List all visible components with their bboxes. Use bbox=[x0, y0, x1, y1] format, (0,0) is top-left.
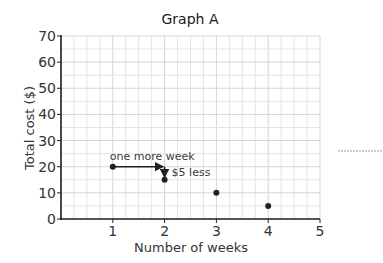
y-tick-label: 70 bbox=[38, 28, 56, 44]
five-less-label: $5 less bbox=[172, 166, 211, 179]
one-more-week-label: one more week bbox=[110, 150, 195, 163]
x-tick-label: 2 bbox=[160, 223, 169, 239]
x-axis-label: Number of weeks bbox=[134, 240, 248, 255]
data-point bbox=[110, 164, 116, 170]
annotations: one more week$5 less bbox=[110, 150, 211, 180]
chart-title: Graph A bbox=[162, 11, 219, 27]
x-tick-label: 4 bbox=[264, 223, 273, 239]
data-point bbox=[265, 203, 271, 209]
data-point bbox=[162, 177, 168, 183]
y-tick-label: 10 bbox=[38, 185, 56, 201]
x-tick-label: 5 bbox=[316, 223, 325, 239]
y-tick-label: 20 bbox=[38, 159, 56, 175]
y-tick-label: 50 bbox=[38, 80, 56, 96]
grid bbox=[61, 36, 320, 219]
x-tick-label: 3 bbox=[212, 223, 221, 239]
y-tick-label: 0 bbox=[47, 211, 56, 227]
y-axis-label: Total cost ($) bbox=[22, 86, 37, 171]
x-tick-labels: 12345 bbox=[108, 219, 324, 239]
y-tick-label: 40 bbox=[38, 106, 56, 122]
chart-canvas: Graph A 010203040506070 12345 Total cost… bbox=[0, 0, 383, 263]
y-tick-labels: 010203040506070 bbox=[38, 28, 61, 227]
y-tick-label: 30 bbox=[38, 133, 56, 149]
y-tick-label: 60 bbox=[38, 54, 56, 70]
x-tick-label: 1 bbox=[108, 223, 117, 239]
data-point bbox=[213, 190, 219, 196]
